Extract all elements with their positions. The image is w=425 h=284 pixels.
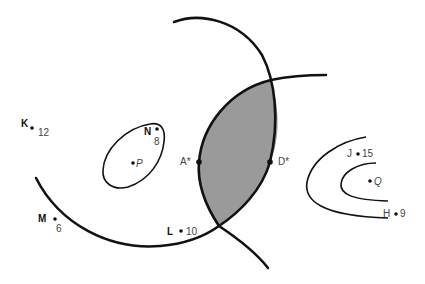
value-k: 12	[38, 127, 50, 138]
label-p: P	[136, 158, 143, 169]
point-a-dot	[196, 159, 202, 165]
point-p-dot	[131, 161, 135, 165]
contour-diagram: K 12 N 8 P M 6 L 10 A* D* J 15 Q H 9	[0, 0, 425, 284]
label-d: D*	[278, 156, 289, 167]
value-m: 6	[56, 223, 62, 234]
point-h-dot	[394, 212, 398, 216]
label-n: N	[144, 126, 151, 137]
value-l: 10	[186, 226, 198, 237]
point-m-dot	[53, 217, 57, 221]
value-h: 9	[400, 208, 406, 219]
label-m: M	[38, 213, 46, 224]
point-q-dot	[368, 179, 372, 183]
label-l: L	[167, 226, 173, 237]
point-k-dot	[30, 126, 34, 130]
label-a: A*	[180, 156, 191, 167]
point-l-dot	[179, 229, 183, 233]
value-j: 15	[362, 148, 374, 159]
point-j-dot	[356, 152, 360, 156]
label-q: Q	[374, 176, 382, 187]
label-j: J	[347, 148, 352, 159]
point-d-dot	[267, 159, 273, 165]
label-k: K	[21, 118, 29, 129]
shaded-region	[199, 80, 278, 226]
point-n-dot	[155, 127, 159, 131]
loop-p	[103, 124, 164, 188]
value-n: 8	[154, 136, 160, 147]
label-h: H	[383, 208, 390, 219]
